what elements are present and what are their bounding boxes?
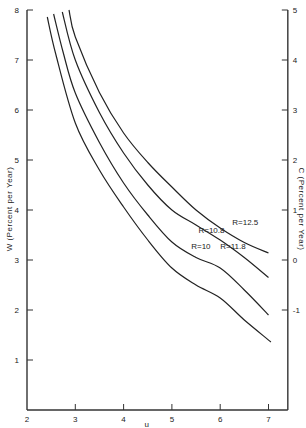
curve-r-11-8 [62,12,268,278]
curve-r-10-8 [54,14,269,315]
curve-r-10 [47,17,271,342]
x-tick-label: 3 [73,415,78,424]
y2-tick-label: 4 [293,56,298,65]
x-tick-label: 7 [266,415,271,424]
y-tick-label: 6 [15,106,20,115]
chart-figure: 12345678234567-1012345 R=10R=10.8R=11.8R… [0,0,306,428]
x-tick-label: 6 [218,415,223,424]
curve-label: R=10 [191,242,211,251]
y-axis-title: W (Percent per Year) [5,167,14,252]
y2-tick-label: 5 [293,6,298,15]
curve-label: R=12.5 [232,218,259,227]
y-tick-label: 8 [15,6,20,15]
y-tick-label: 7 [15,56,20,65]
axes: 12345678234567-1012345 [15,6,301,424]
y-tick-label: 4 [15,206,20,215]
x-tick-label: 5 [170,415,175,424]
y-tick-label: 1 [15,356,20,365]
y-tick-label: 5 [15,156,20,165]
y2-tick-label: 0 [293,256,298,265]
curve-label: R=11.8 [220,242,246,251]
curve-labels: R=10R=10.8R=11.8R=12.5 [191,218,259,251]
x-tick-label: 2 [25,415,30,424]
x-tick-label: 4 [121,415,126,424]
curve-label: R=10.8 [198,226,225,235]
x-axis-title: u [145,420,150,428]
curve-r-12-5 [69,10,269,253]
y-tick-label: 3 [15,256,20,265]
y2-tick-label: -1 [293,306,301,315]
curves [47,10,271,342]
y2-tick-label: 3 [293,106,298,115]
y2-tick-label: 2 [293,156,298,165]
y2-axis-title: C (Percent per Year) [297,168,306,251]
y-tick-label: 2 [15,306,20,315]
